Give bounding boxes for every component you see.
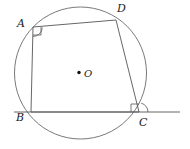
segment-DC <box>116 20 139 112</box>
geometry-canvas <box>0 0 190 149</box>
vertex-label-C: C <box>139 117 147 128</box>
vertex-label-B: B <box>16 112 24 123</box>
vertex-label-D: D <box>117 3 126 14</box>
geometry-figure: A D B C O <box>0 0 190 149</box>
angle-arc-at-C <box>141 103 148 112</box>
segment-AD <box>33 20 116 27</box>
vertex-label-A: A <box>17 18 25 29</box>
center-label-O: O <box>84 69 92 79</box>
segment-BA <box>31 27 33 112</box>
center-point-dot <box>77 71 80 74</box>
